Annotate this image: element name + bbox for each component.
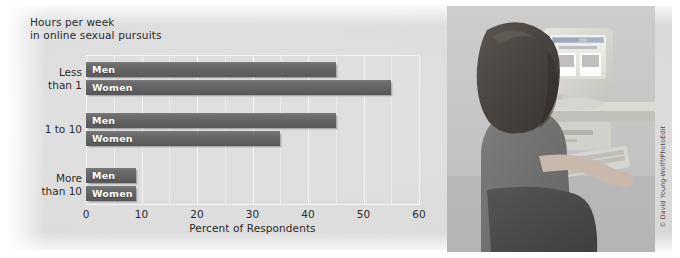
gridline-minor-55	[391, 55, 392, 205]
gridline-minor-45	[336, 55, 337, 205]
x-tick-40: 40	[301, 208, 314, 220]
photo-credit: © David Young-Wolff/PhotoEdit	[659, 126, 667, 228]
x-tick-60: 60	[412, 208, 425, 220]
x-tick-20: 20	[190, 208, 203, 220]
gridline-60	[419, 55, 420, 205]
x-axis-label: Percent of Respondents	[86, 222, 419, 234]
bar-label: Men	[86, 64, 115, 75]
gridline-minor-15	[169, 55, 170, 205]
bar-label: Men	[86, 115, 115, 126]
bar-women-group-1: Women	[86, 80, 391, 95]
gridline-50	[364, 55, 365, 205]
category-label-2: 1 to 10	[8, 123, 82, 136]
x-tick-30: 30	[246, 208, 259, 220]
x-tick-0: 0	[83, 208, 90, 220]
gridline-10	[142, 55, 143, 205]
x-tick-50: 50	[357, 208, 370, 220]
bar-chart: Hours per week in online sexual pursuits…	[0, 0, 412, 258]
bar-label: Women	[86, 82, 133, 93]
bar-label: Women	[86, 133, 133, 144]
category-label-3: More than 10	[8, 172, 82, 197]
x-tick-10: 10	[135, 208, 148, 220]
figure-canvas: Hours per week in online sexual pursuits…	[0, 0, 680, 258]
bar-women-group-2: Women	[86, 131, 280, 146]
gridline-minor-25	[225, 55, 226, 205]
gridline-minor-35	[280, 55, 281, 205]
bar-label: Women	[86, 188, 133, 199]
category-labels: Less than 11 to 10More than 10	[4, 0, 82, 258]
photo-woman-at-computer	[447, 6, 655, 252]
bar-men-group-2: Men	[86, 113, 336, 128]
bar-women-group-3: Women	[86, 186, 136, 201]
gridline-40	[308, 55, 309, 205]
bar-men-group-1: Men	[86, 62, 336, 77]
gridline-30	[253, 55, 254, 205]
photo-illustration	[447, 6, 655, 252]
category-label-1: Less than 1	[8, 66, 82, 91]
bar-label: Men	[86, 170, 115, 181]
bar-men-group-3: Men	[86, 168, 136, 183]
gridline-20	[197, 55, 198, 205]
